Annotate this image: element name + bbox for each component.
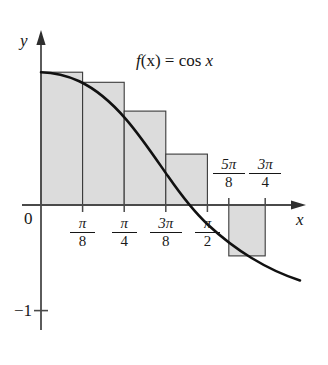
fraction-denominator: 4 <box>112 232 137 249</box>
x-axis-label: x <box>296 211 304 228</box>
x-tick-label-pi-over-2: π 2 <box>195 216 220 250</box>
x-tick-label-pi-over-8: π 8 <box>70 216 95 250</box>
fraction-denominator: 4 <box>249 173 281 190</box>
cosine-riemann-sum-figure: y x 0 −1 f(x) = cos x π 8 π 4 3π 8 π 2 5… <box>0 0 328 365</box>
fraction-numerator: π <box>195 216 220 232</box>
fraction-numerator: π <box>112 216 137 232</box>
x-tick-label-3pi-over-8: 3π 8 <box>150 216 182 250</box>
origin-label: 0 <box>24 210 33 227</box>
y-axis-label: y <box>20 32 28 49</box>
x-tick-label-5pi-over-8: 5π 8 <box>213 157 245 191</box>
riemann-rectangle-4 <box>166 154 208 205</box>
function-label-variable: x <box>201 51 213 70</box>
fraction-denominator: 8 <box>213 173 245 190</box>
y-axis-minus-one-label: −1 <box>14 302 32 319</box>
function-label-arg: (x) <box>141 51 161 70</box>
riemann-rectangle-1 <box>41 72 83 205</box>
function-label: f(x) = cos x <box>136 52 213 69</box>
fraction-denominator: 2 <box>195 232 220 249</box>
riemann-rectangle-5-negative <box>229 205 265 256</box>
fraction-denominator: 8 <box>70 232 95 249</box>
fraction-numerator: 5π <box>213 157 245 173</box>
fraction-numerator: π <box>70 216 95 232</box>
function-label-cos: cos <box>179 51 202 70</box>
fraction-denominator: 8 <box>150 232 182 249</box>
function-label-equals: = <box>161 51 179 70</box>
fraction-numerator: 3π <box>150 216 182 232</box>
fraction-numerator: 3π <box>249 157 281 173</box>
x-tick-label-pi-over-4: π 4 <box>112 216 137 250</box>
x-tick-label-3pi-over-4: 3π 4 <box>249 157 281 191</box>
riemann-rectangle-2 <box>83 82 125 205</box>
